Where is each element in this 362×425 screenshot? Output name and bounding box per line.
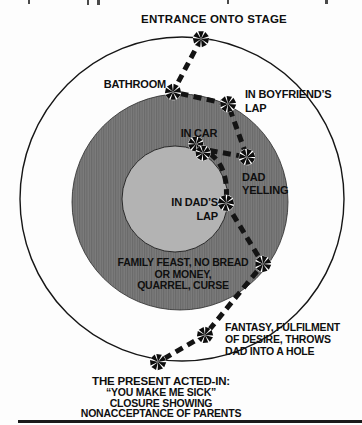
label-line: YELLING	[242, 184, 288, 197]
label-line: ENTRANCE ONTO STAGE	[139, 13, 289, 25]
label-line: DAD	[242, 171, 288, 184]
label-line: IN BOYFRIEND’S	[245, 87, 331, 101]
label-in-dads-lap: IN DAD’S LAP	[156, 195, 218, 223]
figure-canvas: ENTRANCE ONTO STAGE BATHROOM IN BOYFRIEN…	[0, 0, 362, 425]
label-line: NONACCEPTANCE OF PARENTS	[61, 408, 261, 419]
label-in-boyfriends-lap: IN BOYFRIEND’S LAP	[245, 87, 331, 115]
label-dad-yelling: DAD YELLING	[242, 171, 288, 197]
label-line: FANTASY, FULFILMENT	[225, 321, 340, 333]
label-family-feast: FAMILY FEAST, NO BREAD OR MONEY, QUARREL…	[108, 257, 258, 292]
label-line: LAP	[245, 101, 331, 115]
label-fantasy: FANTASY, FULFILMENT OF DESIRE, THROWS DA…	[225, 321, 340, 357]
label-line: QUARREL, CURSE	[108, 280, 258, 292]
label-line: IN CAR	[176, 127, 222, 139]
label-entrance-onto-stage: ENTRANCE ONTO STAGE	[139, 13, 289, 25]
node-entrance	[193, 31, 210, 48]
label-line: “YOU MAKE ME SICK”	[61, 387, 261, 398]
label-line: IN DAD’S	[156, 195, 218, 209]
label-line: OF DESIRE, THROWS	[225, 333, 340, 345]
label-line: FAMILY FEAST, NO BREAD	[108, 257, 258, 269]
label-bathroom: BATHROOM	[94, 78, 166, 90]
label-present-acted-in: THE PRESENT ACTED-IN: “YOU MAKE ME SICK”…	[61, 375, 261, 419]
label-line: LAP	[156, 209, 218, 223]
bottom-rule-line	[18, 420, 362, 423]
label-line: BATHROOM	[94, 78, 166, 90]
label-line: DAD INTO A HOLE	[225, 345, 340, 357]
label-in-car: IN CAR	[176, 127, 222, 139]
